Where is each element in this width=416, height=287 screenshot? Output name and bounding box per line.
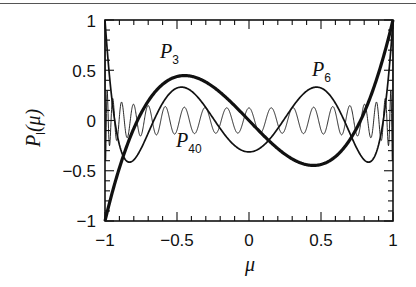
curve-label-p3: P3: [159, 40, 179, 67]
y-axis-label: Pl(μ): [22, 108, 48, 148]
curve-label-p6: P6: [311, 58, 331, 85]
y-tick-label: −1: [77, 212, 96, 231]
curve-label-p40: P40: [175, 129, 202, 156]
legendre-chart: 1 0.5 0 −0.5 −1 −1 −0.5 0 0.5 1 μ Pl(μ) …: [0, 0, 416, 287]
x-tick-label: −1: [95, 231, 114, 250]
x-tick-label: 0.5: [309, 231, 333, 250]
x-tick-label: 0: [244, 231, 253, 250]
y-axis-label-main: Pl(μ): [22, 108, 48, 148]
x-axis-label: μ: [244, 253, 255, 276]
x-tick-label: −0.5: [160, 231, 194, 250]
y-tick-label: 0: [87, 112, 96, 131]
y-tick-label: −0.5: [62, 162, 96, 181]
curves-group: [105, 20, 393, 221]
x-tick-label: 1: [388, 231, 397, 250]
curve-p3: [105, 20, 393, 221]
y-tick-label: 1: [87, 12, 96, 31]
y-tick-label: 0.5: [72, 62, 96, 81]
